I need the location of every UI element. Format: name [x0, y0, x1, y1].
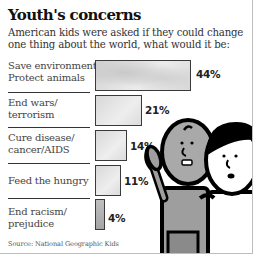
bar-end-racism	[95, 199, 105, 230]
bar-cure-disease	[95, 130, 127, 161]
bar-end-wars	[95, 95, 142, 126]
category-label: End racism/ prejudice	[8, 206, 67, 229]
chart-subtitle: American kids were asked if they could c…	[8, 27, 248, 51]
category-label-line: End wars/	[8, 97, 57, 109]
category-label-line: prejudice	[8, 218, 67, 230]
value-label: 4%	[108, 212, 125, 224]
category-label-line: terrorism	[8, 109, 57, 121]
category-label-line: Feed the hungry	[8, 175, 89, 187]
kids-illustration-icon	[140, 110, 252, 253]
category-label-line: Protect animals	[8, 72, 100, 84]
value-label: 44%	[196, 68, 220, 80]
category-label: Cure disease/ cancer/AIDS	[8, 132, 74, 155]
category-label: End wars/ terrorism	[8, 97, 57, 120]
category-label-line: cancer/AIDS	[8, 144, 74, 156]
row-divider	[8, 163, 90, 164]
category-label: Feed the hungry	[8, 175, 89, 187]
category-label-line: Cure disease/	[8, 132, 74, 144]
bar-feed-hungry	[95, 165, 121, 196]
row-divider	[8, 127, 90, 128]
chart-title: Youth's concerns	[8, 6, 141, 24]
category-label-line: End racism/	[8, 206, 67, 218]
category-label-line: Save environment/	[8, 60, 100, 72]
bar-save-environment	[95, 60, 191, 91]
row-divider	[8, 198, 90, 199]
row-divider	[8, 92, 90, 93]
category-label: Save environment/ Protect animals	[8, 60, 100, 83]
source-note: Source: National Geographic Kids	[8, 240, 119, 248]
